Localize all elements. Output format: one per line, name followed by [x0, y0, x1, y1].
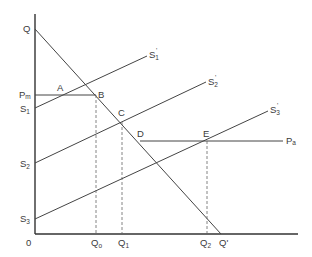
supply-line-s1 — [35, 56, 147, 108]
label-q0: Qo — [91, 237, 102, 249]
supply-line-s3 — [35, 111, 268, 219]
label-pm: Pm — [19, 89, 31, 100]
label-q1: Q1 — [118, 237, 129, 249]
label-q-prime: Q' — [219, 237, 228, 248]
label-s3: S3 — [20, 213, 30, 225]
label-pa: Pa — [286, 135, 296, 146]
demand-line — [35, 29, 221, 234]
label-q: Q — [23, 23, 30, 34]
point-c: C — [118, 107, 125, 118]
label-s2-prime: S2' — [208, 74, 218, 88]
label-s2: S2 — [20, 158, 30, 170]
label-s3-prime: S3' — [270, 102, 280, 116]
label-q2: Q2 — [200, 237, 211, 249]
point-b: B — [98, 89, 104, 100]
supply-demand-diagram: Q Pm S1 S2 S3 0 Qo Q1 Q2 Q' S1' S2' S3' … — [0, 0, 312, 257]
point-a: A — [57, 82, 64, 93]
label-s1: S1 — [20, 103, 30, 115]
label-origin: 0 — [26, 237, 31, 248]
supply-line-s2 — [35, 82, 206, 163]
point-d: D — [137, 128, 144, 139]
label-s1-prime: S1' — [149, 47, 159, 61]
point-e: E — [203, 128, 209, 139]
